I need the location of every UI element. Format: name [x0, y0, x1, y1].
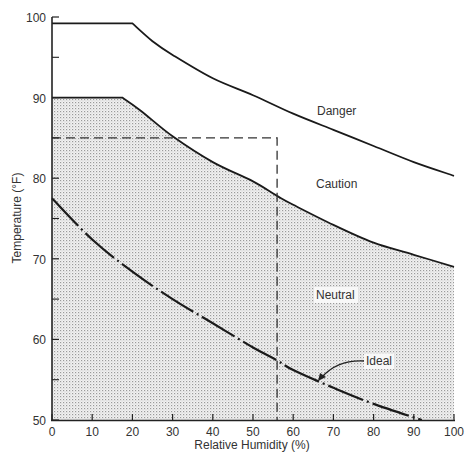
stippled-region	[52, 98, 454, 420]
x-tick-label: 0	[49, 425, 56, 439]
x-axis-title: Relative Humidity (%)	[194, 438, 309, 452]
neutral-region-fill	[52, 98, 454, 420]
y-tick-label: 70	[33, 253, 47, 267]
y-tick-label: 100	[26, 11, 46, 25]
y-tick-label: 50	[33, 414, 47, 428]
humidity-temperature-chart: 0102030405060708090100 5060708090100 Dan…	[0, 0, 476, 464]
ideal-label: Ideal	[366, 354, 392, 368]
x-tick-label: 20	[126, 425, 140, 439]
danger-label: Danger	[317, 104, 356, 118]
x-tick-label: 40	[206, 425, 220, 439]
y-axis-title: Temperature (°F)	[10, 173, 24, 264]
y-tick-label: 90	[33, 92, 47, 106]
x-tick-label: 50	[246, 425, 260, 439]
x-tick-label: 30	[166, 425, 180, 439]
caution-label: Caution	[316, 177, 357, 191]
x-tick-label: 80	[367, 425, 381, 439]
neutral-label: Neutral	[316, 288, 355, 302]
y-tick-label: 60	[33, 333, 47, 347]
x-tick-label: 100	[444, 425, 464, 439]
y-tick-label: 80	[33, 172, 47, 186]
x-tick-label: 60	[287, 425, 301, 439]
x-tick-label: 90	[407, 425, 421, 439]
x-tick-label: 10	[86, 425, 100, 439]
x-tick-label: 70	[327, 425, 341, 439]
